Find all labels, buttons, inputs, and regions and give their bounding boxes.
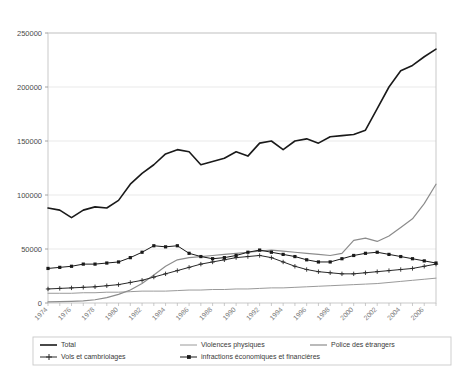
x-axis-tick-label: 1996 [292,306,308,322]
legend-item-2[interactable]: Police des étrangers [310,341,395,349]
legend-item-3[interactable]: Vols et cambriolages [40,353,126,361]
y-axis-tick-label: 250000 [17,29,42,38]
y-axis-ticks: 050000100000150000200000250000 [17,29,48,308]
legend-label: Police des étrangers [331,341,395,349]
legend-label: infractions économiques et financières [201,353,321,361]
y-axis-tick-label: 200000 [17,83,42,92]
x-axis-tick-label: 2004 [386,306,402,322]
x-axis-tick-label: 2000 [339,306,355,322]
legend-label: Vols et cambriolages [61,353,126,361]
x-axis-ticks: 1974197619781980198219841986198819901992… [33,303,436,321]
legend-label: Violences physiques [201,341,265,349]
chart-container: 050000100000150000200000250000 197419761… [0,0,454,385]
legend-item-1[interactable]: Violences physiques [180,341,265,349]
x-axis-tick-label: 1994 [268,306,284,322]
y-axis-tick-label: 100000 [17,191,42,200]
x-axis-tick-label: 1990 [221,306,237,322]
x-axis-tick-label: 2002 [362,306,378,322]
gridlines [48,33,436,249]
chart-title [0,0,454,14]
legend-item-4[interactable]: infractions économiques et financières [180,353,321,361]
series-0 [48,49,436,217]
line-chart: 050000100000150000200000250000 197419761… [0,0,454,385]
x-axis-tick-label: 2006 [409,306,425,322]
y-axis-tick-label: 0 [38,299,42,308]
x-axis-tick-label: 1986 [174,306,190,322]
x-axis-tick-label: 1992 [245,306,261,322]
x-axis-tick-label: 1976 [57,306,73,322]
y-axis-tick-label: 50000 [21,245,42,254]
series-2 [48,184,436,302]
series-3 [46,253,438,291]
x-axis-tick-label: 1978 [80,306,96,322]
x-axis-tick-label: 1982 [127,306,143,322]
x-axis-tick-label: 1984 [151,306,167,322]
chart-legend: TotalViolences physiquesPolice des étran… [33,337,451,365]
x-axis-tick-label: 1974 [33,306,49,322]
legend-item-0[interactable]: Total [40,341,76,348]
x-axis-tick-label: 1980 [104,306,120,322]
legend-label: Total [61,341,76,348]
y-axis-tick-label: 150000 [17,137,42,146]
x-axis-tick-label: 1998 [315,306,331,322]
x-axis-tick-label: 1988 [198,306,214,322]
